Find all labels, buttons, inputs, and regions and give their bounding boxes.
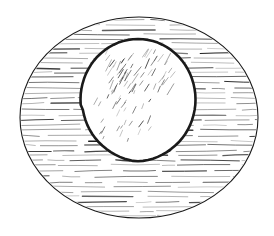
illustration — [0, 0, 274, 236]
hatch-line — [123, 171, 155, 172]
hatch-line — [231, 98, 263, 99]
hatch-line — [21, 39, 50, 40]
hatch-line — [243, 52, 263, 53]
hatch-line — [203, 206, 259, 207]
hatch-line — [157, 211, 216, 212]
hatch-line — [21, 103, 44, 104]
hatch-line — [230, 39, 263, 40]
hatch-line — [66, 34, 129, 35]
hatch-line — [240, 19, 263, 20]
hatch-line — [22, 34, 60, 35]
hatch-line — [230, 211, 257, 212]
hatch-line — [23, 88, 83, 89]
hatch-line — [235, 88, 263, 89]
hatch-line — [103, 30, 156, 31]
hatch-line — [21, 186, 41, 187]
hatch-line — [106, 25, 155, 26]
hatch-line — [50, 186, 105, 187]
hatch-line — [259, 196, 263, 197]
hatch-line — [20, 211, 77, 212]
hatch-line — [17, 53, 67, 54]
hatch-line — [85, 151, 107, 152]
hatch-line — [22, 191, 73, 192]
hatch-line — [189, 202, 225, 203]
hatch-line — [209, 34, 263, 35]
hatch-line — [16, 124, 80, 126]
hatch-line — [242, 109, 263, 110]
hatch-line — [203, 182, 263, 183]
hatch-line — [151, 20, 165, 21]
hatch-line — [208, 30, 260, 31]
hatch-line — [19, 119, 54, 120]
hatch-line — [21, 68, 60, 69]
hatch-line — [118, 182, 148, 183]
hatch-line — [156, 202, 179, 203]
hatch-line — [60, 202, 127, 203]
hatch-line — [223, 155, 250, 156]
hatch-line — [177, 165, 229, 166]
hatch-line — [20, 43, 43, 44]
ellipse-circle-drawing — [0, 0, 274, 236]
hatch-line — [208, 48, 249, 49]
hatch-line — [258, 216, 263, 217]
hatch-line — [176, 150, 236, 151]
hatch-line — [51, 98, 75, 99]
hatch-line — [201, 129, 258, 130]
hatch-line — [136, 202, 151, 203]
hatch-line — [252, 177, 263, 178]
inner-circle — [81, 39, 196, 161]
hatch-line — [17, 215, 58, 216]
hatch-line — [249, 186, 263, 187]
hatch-line — [181, 160, 239, 161]
hatch-line — [192, 25, 236, 26]
hatch-line — [22, 109, 69, 110]
hatch-line — [148, 191, 213, 192]
hatch-line — [204, 125, 227, 126]
hatch-line — [46, 182, 72, 183]
hatch-line — [191, 62, 234, 63]
hatch-line — [23, 62, 82, 63]
hatch-line — [200, 53, 230, 54]
hatch-line — [231, 141, 252, 142]
hatch-line — [260, 68, 263, 69]
hatch-line — [259, 154, 263, 155]
hatch-line — [172, 43, 221, 44]
hatch-line — [170, 30, 205, 31]
hatch-line — [18, 72, 52, 73]
hatch-line — [208, 144, 263, 145]
hatch-line — [17, 30, 49, 31]
hatch-line — [114, 186, 171, 187]
hatch-line — [75, 170, 112, 171]
hatch-line — [22, 58, 88, 59]
hatch-line — [21, 93, 81, 94]
hatch-line — [15, 49, 79, 50]
hatch-line — [236, 115, 263, 116]
hatch-line — [16, 82, 79, 83]
hatch-line — [148, 196, 188, 197]
hatch-line — [55, 30, 91, 31]
hatch-line — [48, 160, 64, 161]
hatch-line — [63, 176, 80, 177]
hatch-line — [111, 164, 159, 165]
hatch-line — [237, 103, 263, 104]
hatch-line — [244, 151, 263, 152]
hatch-line — [95, 176, 157, 177]
hatch-line — [225, 81, 263, 82]
hatch-line — [235, 72, 263, 73]
hatch-line — [70, 160, 101, 161]
hatch-line — [16, 202, 36, 203]
hatch-line — [16, 141, 76, 142]
hatch-line — [205, 120, 249, 121]
hatch-line — [21, 129, 81, 130]
hatch-line — [21, 144, 35, 145]
hatch-line — [17, 98, 47, 99]
